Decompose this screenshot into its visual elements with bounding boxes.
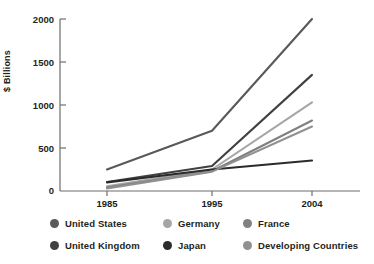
legend-item-united-kingdom[interactable]: United Kingdom xyxy=(50,240,140,251)
legend-item-united-states[interactable]: United States xyxy=(50,218,127,229)
chart-legend: United States Germany France United King… xyxy=(50,218,370,262)
legend-label: United States xyxy=(65,218,127,229)
legend-swatch-icon xyxy=(163,241,172,250)
legend-swatch-icon xyxy=(243,219,252,228)
legend-swatch-icon xyxy=(50,241,59,250)
legend-label: Germany xyxy=(178,218,220,229)
legend-item-japan[interactable]: Japan xyxy=(163,240,206,251)
legend-item-germany[interactable]: Germany xyxy=(163,218,220,229)
legend-item-france[interactable]: France xyxy=(243,218,290,229)
line-chart: $ Billions 2000 1500 1000 500 0 1985 199… xyxy=(0,0,374,264)
legend-label: Developing Countries xyxy=(258,240,358,251)
legend-swatch-icon xyxy=(243,241,252,250)
legend-label: France xyxy=(258,218,290,229)
series-line-germany xyxy=(107,102,312,186)
x-tick-1985: 1985 xyxy=(87,198,127,209)
series-line-united-states xyxy=(107,19,312,170)
x-tick-1995: 1995 xyxy=(192,198,232,209)
series-line-united-kingdom xyxy=(107,75,312,182)
legend-swatch-icon xyxy=(163,219,172,228)
legend-label: Japan xyxy=(178,240,206,251)
legend-item-developing-countries[interactable]: Developing Countries xyxy=(243,240,358,251)
data-series-layer xyxy=(107,19,312,188)
legend-swatch-icon xyxy=(50,219,59,228)
x-tick-2004: 2004 xyxy=(292,198,332,209)
legend-label: United Kingdom xyxy=(65,240,140,251)
